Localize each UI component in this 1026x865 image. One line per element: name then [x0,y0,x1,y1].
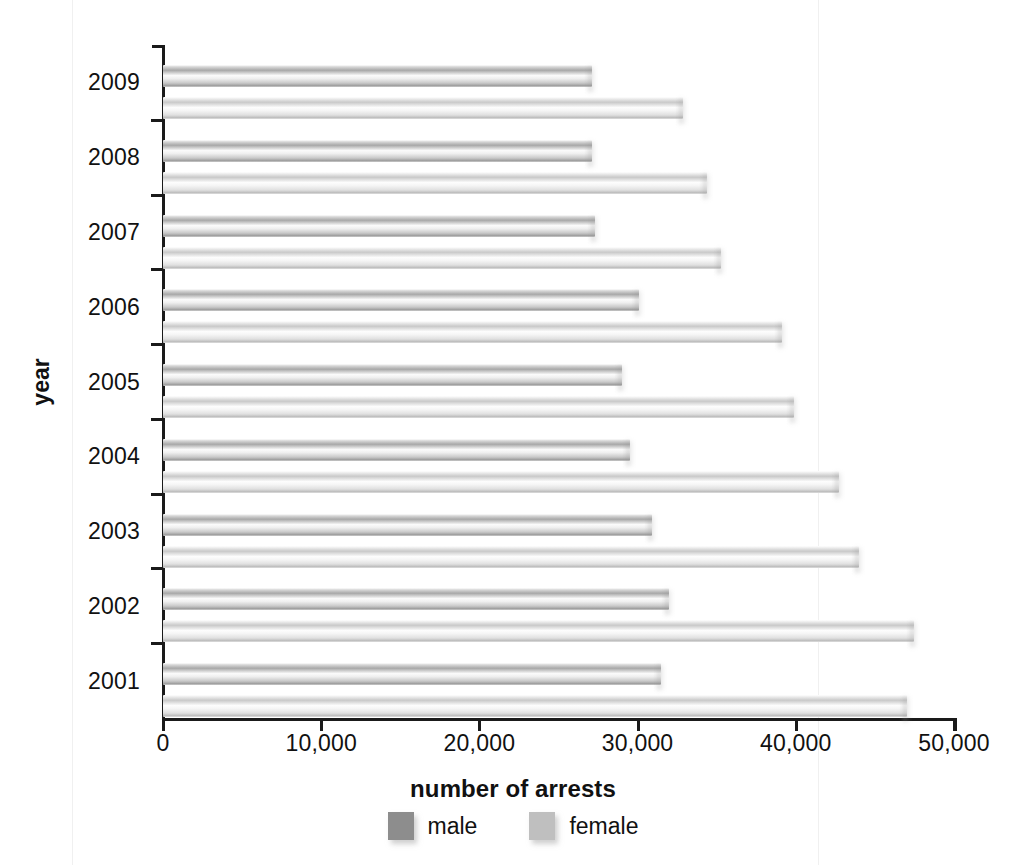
bar-male-2003[interactable] [163,514,652,536]
x-axis-tick-label: 0 [88,730,238,757]
y-axis-tick-label: 2004 [30,443,140,470]
bar-male-2009[interactable] [163,65,592,87]
y-axis-tick-label: 2006 [30,293,140,320]
y-axis-tick [151,493,163,496]
bar-female-2003[interactable] [163,546,859,568]
legend-item-male[interactable]: male [388,812,478,840]
y-axis-tick-label: 2002 [30,592,140,619]
x-axis-tick-label: 20,000 [404,730,554,757]
y-axis-tick [151,642,163,645]
x-axis-tick-label: 30,000 [563,730,713,757]
y-axis-tick-label: 2003 [30,518,140,545]
y-axis-title: year [28,358,55,405]
x-axis-line [162,718,957,721]
y-axis-tick [151,268,163,271]
bar-male-2005[interactable] [163,364,622,386]
female-swatch-icon [529,812,555,840]
y-axis-tick [151,567,163,570]
y-axis-tick-label: 2001 [30,667,140,694]
y-axis-tick [151,343,163,346]
bar-female-2001[interactable] [163,695,907,717]
bar-chart: 010,00020,00030,00040,00050,000200920082… [0,0,1026,865]
y-axis-tick [151,194,163,197]
bar-female-2008[interactable] [163,172,707,194]
bar-male-2006[interactable] [163,289,639,311]
legend-label-female: female [569,813,638,840]
bar-male-2004[interactable] [163,439,630,461]
y-axis-tick-label: 2007 [30,218,140,245]
bar-female-2006[interactable] [163,321,782,343]
y-axis-tick-label: 2009 [30,69,140,96]
male-swatch-icon [388,812,414,840]
bar-female-2007[interactable] [163,247,721,269]
x-axis-tick-label: 10,000 [246,730,396,757]
bar-female-2004[interactable] [163,471,839,493]
bar-male-2001[interactable] [163,663,661,685]
x-axis-title: number of arrests [0,775,1026,803]
bar-male-2002[interactable] [163,588,669,610]
bar-male-2007[interactable] [163,215,595,237]
y-axis-tick [151,119,163,122]
chart-legend: male female [0,812,1026,840]
legend-item-female[interactable]: female [529,812,638,840]
x-axis-tick-label: 40,000 [721,730,871,757]
bar-female-2005[interactable] [163,396,794,418]
legend-label-male: male [428,813,478,840]
bar-female-2002[interactable] [163,620,914,642]
x-axis-tick-label: 50,000 [879,730,1026,757]
y-axis-tick-label: 2008 [30,144,140,171]
y-axis-tick [151,418,163,421]
bar-male-2008[interactable] [163,140,592,162]
y-axis-top-cap [152,45,164,48]
bar-female-2009[interactable] [163,97,683,119]
